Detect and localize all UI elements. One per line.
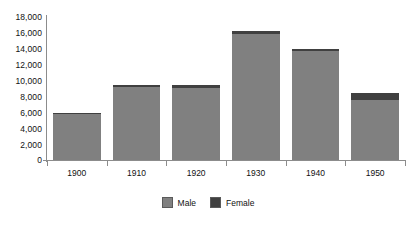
y-tick-label: 4,000	[0, 125, 42, 134]
x-axis-tick	[226, 161, 227, 166]
chart-legend: Male Female	[0, 197, 416, 208]
x-axis-tick	[107, 161, 108, 166]
y-axis-labels: 18,000 16,000 14,000 12,000 10,000 8,000…	[0, 0, 42, 229]
legend-label-male: Male	[178, 198, 196, 208]
y-tick-label: 16,000	[0, 29, 42, 38]
x-axis-tick	[166, 161, 167, 166]
bar-group	[53, 113, 101, 160]
y-tick-label: 2,000	[0, 141, 42, 150]
bar-group	[292, 49, 340, 160]
bar-group	[351, 93, 399, 160]
y-tick-label: 18,000	[0, 13, 42, 22]
bar-group	[113, 85, 161, 160]
bar-segment-male	[351, 100, 399, 160]
y-tick-label: 10,000	[0, 77, 42, 86]
bar-segment-male	[172, 88, 220, 160]
y-tick-label: 14,000	[0, 45, 42, 54]
bar-group	[172, 85, 220, 160]
x-tick-label: 1930	[226, 168, 286, 178]
x-axis-tick	[345, 161, 346, 166]
bar-chart: 18,000 16,000 14,000 12,000 10,000 8,000…	[0, 0, 416, 229]
y-tick-label: 8,000	[0, 93, 42, 102]
bar-segment-male	[113, 87, 161, 160]
bar-group	[232, 31, 280, 160]
y-tick-label: 0	[0, 156, 42, 165]
legend-label-female: Female	[226, 198, 254, 208]
legend-swatch-female	[210, 197, 221, 208]
x-axis-tick	[405, 161, 406, 166]
x-tick-label: 1950	[345, 168, 405, 178]
x-tick-label: 1900	[47, 168, 107, 178]
bar-segment-male	[292, 51, 340, 160]
x-tick-label: 1910	[107, 168, 167, 178]
bar-segment-male	[232, 34, 280, 160]
bar-series-container	[47, 17, 405, 160]
x-axis-tick	[286, 161, 287, 166]
bar-segment-male	[53, 114, 101, 160]
x-tick-label: 1940	[286, 168, 346, 178]
legend-item-female: Female	[210, 197, 254, 208]
y-tick-label: 12,000	[0, 61, 42, 70]
x-axis-tick	[47, 161, 48, 166]
x-tick-label: 1920	[166, 168, 226, 178]
legend-item-male: Male	[162, 197, 196, 208]
y-tick-label: 6,000	[0, 109, 42, 118]
legend-swatch-male	[162, 197, 173, 208]
